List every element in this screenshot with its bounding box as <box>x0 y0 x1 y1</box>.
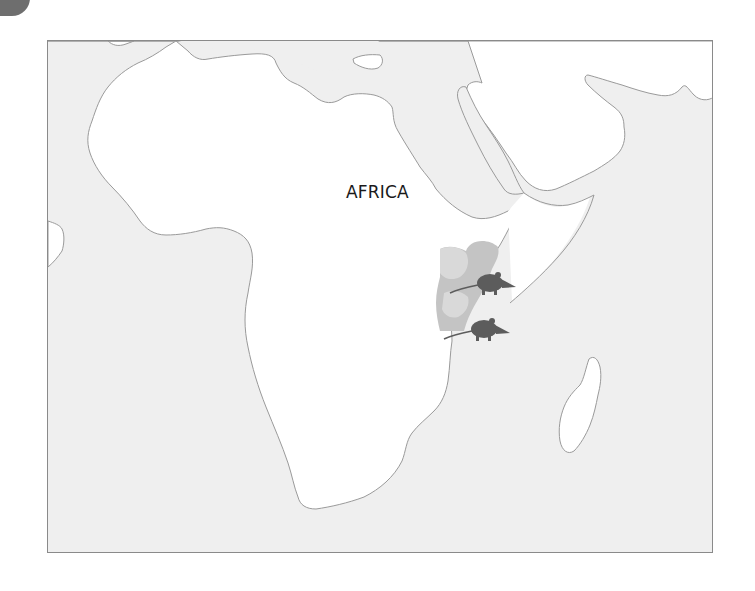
iberian-fragment <box>48 221 64 267</box>
continent-label: AFRICA <box>346 182 409 202</box>
horn-of-africa <box>508 193 590 301</box>
island-mediterranean <box>353 55 382 69</box>
map-canvas <box>48 41 713 553</box>
corner-badge <box>0 0 30 16</box>
map-frame: AFRICA <box>47 40 713 553</box>
madagascar <box>559 357 601 452</box>
